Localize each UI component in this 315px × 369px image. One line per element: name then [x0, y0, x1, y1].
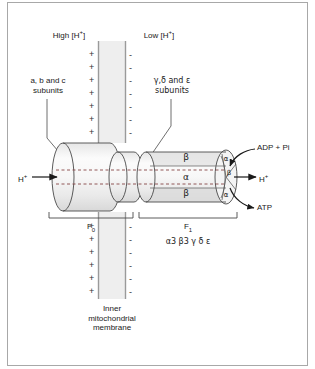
f1-beta-top-label: β [170, 152, 202, 162]
membrane-positive-charge: + [89, 287, 94, 296]
membrane-negative-charge: - [129, 262, 132, 271]
high-proton-label: High [H+] [38, 28, 100, 40]
atp-label: ATP [257, 203, 272, 213]
membrane-positive-charge: + [89, 128, 94, 137]
cap-beta-middle-label: β [222, 169, 236, 177]
membrane-positive-charge: + [89, 115, 94, 124]
membrane-negative-charge: - [129, 288, 132, 297]
membrane-positive-charge: + [89, 102, 94, 111]
membrane-positive-charge: + [89, 274, 94, 283]
proton-out-label: H+ [259, 172, 268, 184]
membrane-negative-charge: - [129, 249, 132, 258]
membrane-negative-charge: - [129, 129, 132, 138]
proton-out-superscript: + [265, 173, 269, 179]
f1-subunits-label: γ,δ and εsubunits [140, 76, 204, 95]
membrane-caption: Innermitochondrialmembrane [65, 304, 159, 333]
cap-alpha-bottom-label: α [219, 191, 233, 199]
f1-beta-bottom-label: β [170, 188, 202, 198]
membrane-negative-charge: - [129, 236, 132, 245]
membrane-negative-charge: - [129, 64, 132, 73]
cap-alpha-top-label: α [219, 155, 233, 163]
membrane-positive-charge: + [89, 261, 94, 270]
proton-in-label: H+ [18, 172, 27, 184]
figure-container: High [H+] Low [H+] a, b and csubunits γ,… [0, 0, 315, 369]
membrane-negative-charge: - [129, 116, 132, 125]
membrane-positive-charge: + [89, 50, 94, 59]
proton-in-superscript: + [24, 173, 28, 179]
membrane-negative-charge: - [129, 51, 132, 60]
f1-complex-label: F1 [175, 222, 201, 235]
membrane-positive-charge: + [89, 222, 94, 231]
f1-bracket [139, 212, 237, 218]
f1-composition-label: α3 β3 γ δ ε [150, 237, 226, 247]
low-proton-label: Low [H+] [128, 28, 190, 40]
f1-alpha-middle-label: α [170, 172, 202, 182]
membrane-positive-charge: + [89, 235, 94, 244]
membrane-positive-charge: + [89, 63, 94, 72]
membrane-negative-charge: - [129, 77, 132, 86]
membrane-negative-charge: - [129, 275, 132, 284]
adp-pi-label: ADP + Pi [257, 143, 290, 153]
membrane-negative-charge: - [129, 90, 132, 99]
fo-subunits-label: a, b and csubunits [14, 76, 82, 95]
membrane-negative-charge: - [129, 103, 132, 112]
membrane-positive-charge: + [89, 89, 94, 98]
membrane-negative-charge: - [129, 223, 132, 232]
membrane-positive-charge: + [89, 248, 94, 257]
membrane-positive-charge: + [89, 76, 94, 85]
f1-subscript: 1 [189, 227, 192, 233]
